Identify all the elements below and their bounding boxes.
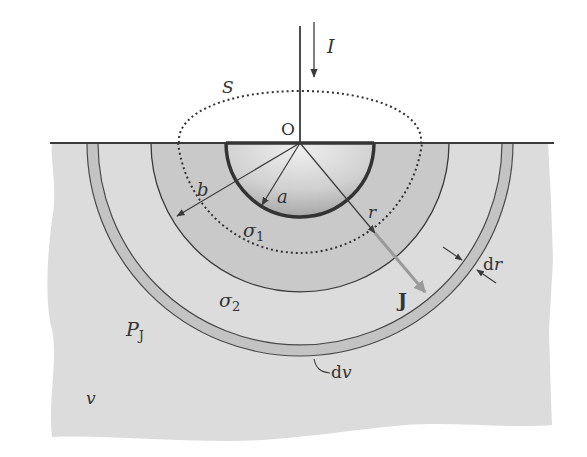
label-current-density-j: J [396,289,407,311]
sigma1-subscript: 1 [256,229,264,244]
dr-r: r [494,254,503,274]
ground-medium [0,143,587,457]
label-radius-b: b [197,179,209,200]
label-radius-a: a [277,186,288,207]
power-symbol: P [125,318,140,340]
label-volume-v: v [86,388,96,408]
label-radius-r: r [368,202,377,222]
dv-v: v [342,362,352,382]
label-current-i: I [326,35,335,57]
sigma2-symbol: σ [219,289,233,311]
grounding-electrode-diagram: I S O b a r σ1 σ2 J dr dv PJ v [0,0,587,457]
label-dv: dv [331,362,352,382]
power-subscript: J [137,328,144,343]
sigma1-symbol: σ [243,219,257,241]
dv-d: d [331,362,342,382]
label-dr: dr [483,254,503,274]
dr-d: d [483,254,494,274]
label-origin-o: O [281,119,295,139]
sigma2-subscript: 2 [232,299,240,314]
label-surface-s: S [222,77,234,97]
